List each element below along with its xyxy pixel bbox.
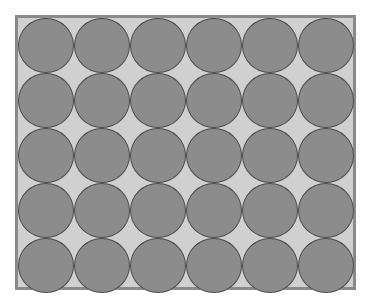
grid-cell [298, 128, 354, 183]
circle-shape [242, 183, 298, 238]
circle-shape [186, 183, 242, 238]
grid-cell [74, 128, 130, 183]
circle-grid [18, 18, 353, 287]
circle-shape [186, 238, 242, 293]
grid-cell [130, 18, 186, 73]
grid-cell [74, 73, 130, 128]
grid-cell [18, 183, 74, 238]
circle-shape [242, 18, 298, 73]
circle-shape [18, 183, 74, 238]
circle-shape [186, 18, 242, 73]
circle-shape [74, 128, 130, 183]
circle-shape [298, 128, 354, 183]
grid-cell [130, 238, 186, 293]
circle-shape [298, 73, 354, 128]
circle-shape [130, 128, 186, 183]
grid-cell [130, 73, 186, 128]
grid-cell [18, 73, 74, 128]
grid-cell [242, 238, 298, 293]
grid-cell [298, 18, 354, 73]
circle-shape [74, 238, 130, 293]
grid-cell [130, 183, 186, 238]
grid-cell [186, 18, 242, 73]
circle-shape [18, 18, 74, 73]
grid-cell [298, 183, 354, 238]
grid-cell [186, 183, 242, 238]
circle-shape [18, 238, 74, 293]
grid-cell [74, 238, 130, 293]
circle-shape [74, 18, 130, 73]
grid-cell [242, 73, 298, 128]
circle-shape [242, 128, 298, 183]
circle-shape [298, 18, 354, 73]
circle-shape [130, 238, 186, 293]
circle-shape [74, 73, 130, 128]
circle-shape [242, 238, 298, 293]
container-rectangle [15, 15, 356, 290]
grid-cell [298, 238, 354, 293]
grid-cell [130, 128, 186, 183]
circle-shape [18, 128, 74, 183]
grid-cell [186, 238, 242, 293]
grid-cell [74, 18, 130, 73]
circle-shape [298, 183, 354, 238]
circle-shape [74, 183, 130, 238]
grid-cell [186, 73, 242, 128]
grid-cell [18, 238, 74, 293]
circle-shape [298, 238, 354, 293]
circle-shape [130, 183, 186, 238]
grid-cell [242, 183, 298, 238]
grid-cell [186, 128, 242, 183]
circle-shape [242, 73, 298, 128]
circle-shape [186, 73, 242, 128]
grid-cell [298, 73, 354, 128]
grid-cell [242, 128, 298, 183]
grid-cell [18, 128, 74, 183]
circle-shape [130, 73, 186, 128]
circle-shape [130, 18, 186, 73]
circle-shape [18, 73, 74, 128]
grid-cell [18, 18, 74, 73]
grid-cell [242, 18, 298, 73]
grid-cell [74, 183, 130, 238]
circle-shape [186, 128, 242, 183]
